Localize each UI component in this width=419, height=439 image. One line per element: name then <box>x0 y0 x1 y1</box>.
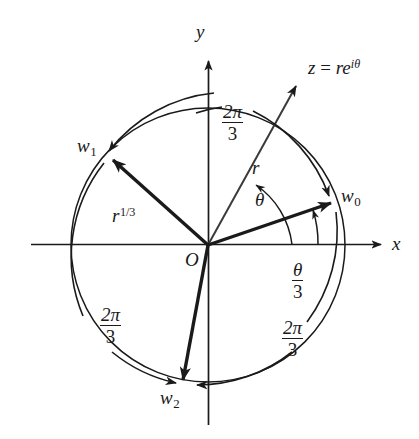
w2-subscript: 2 <box>173 396 180 411</box>
theta-angle-label: θ <box>255 190 264 209</box>
w0-label: w0 <box>341 186 361 209</box>
w2-base: w <box>160 387 173 408</box>
radius-exponent: 1/3 <box>119 205 135 219</box>
r-magnitude-label: r <box>252 158 259 177</box>
w0-subscript: 0 <box>354 194 361 209</box>
two-pi-over-three-lower-left-fraction: 2π 3 <box>100 305 121 347</box>
w2-label: w2 <box>160 388 180 411</box>
two-pi-over-three-lower-right-fraction: 2π 3 <box>282 318 303 360</box>
two-pi-over-three-lower-left-numerator: 2π <box>100 305 121 326</box>
arc-two-pi-over-three-left-to-w2 <box>112 352 176 383</box>
theta-over-three-angle-arc <box>313 210 318 245</box>
radius-r-cube-root-label: r1/3 <box>112 206 135 225</box>
y-axis-label: y <box>196 22 204 41</box>
arc-two-pi-over-three-top-to-w1 <box>109 93 214 151</box>
arc-two-pi-over-three-top-to-w0 <box>253 111 329 196</box>
z-euler-e: e <box>342 57 350 78</box>
w0-base: w <box>341 185 354 206</box>
z-vector-label: z = reiθ <box>308 58 360 77</box>
origin-label: O <box>185 250 199 269</box>
w1-base: w <box>77 135 90 156</box>
arc-two-pi-over-three-left-upper <box>71 163 104 316</box>
theta-over-three-numerator: θ <box>292 260 303 281</box>
x-axis-label: x <box>392 234 400 253</box>
vector-w1 <box>113 160 208 245</box>
theta-over-three-fraction: θ 3 <box>292 260 303 302</box>
z-exponent-theta: θ <box>354 57 360 71</box>
two-pi-over-three-top-denominator: 3 <box>222 123 243 143</box>
w1-label: w1 <box>77 136 97 159</box>
two-pi-over-three-lower-left-denominator: 3 <box>100 326 121 346</box>
arc-two-pi-over-three-right-upper <box>307 212 337 322</box>
arc-two-pi-over-three-right-to-w2 <box>197 352 292 385</box>
two-pi-over-three-lower-right-numerator: 2π <box>282 318 303 339</box>
two-pi-over-three-lower-left-label: 2π 3 <box>100 305 121 347</box>
two-pi-over-three-top-numerator: 2π <box>222 102 243 123</box>
theta-over-three-denominator: 3 <box>292 281 303 301</box>
theta-over-three-label: θ 3 <box>292 260 303 302</box>
z-equals: = <box>315 57 335 78</box>
complex-plane-figure: x y O z = reiθ r θ w0 w1 w2 r1/3 θ 3 2π … <box>0 0 419 439</box>
vector-w0 <box>208 203 331 245</box>
w1-subscript: 1 <box>90 144 97 159</box>
two-pi-over-three-top-label: 2π 3 <box>222 102 243 144</box>
two-pi-over-three-lower-right-denominator: 3 <box>282 339 303 359</box>
two-pi-over-three-lower-right-label: 2π 3 <box>282 318 303 360</box>
two-pi-over-three-top-fraction: 2π 3 <box>222 102 243 144</box>
